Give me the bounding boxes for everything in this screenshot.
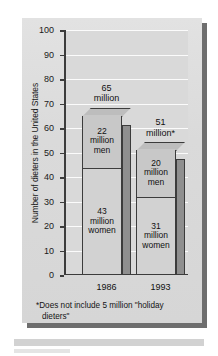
y-axis-tick: 0 [60, 275, 64, 277]
segment-men-1986[interactable]: 22millionmen [83, 115, 121, 169]
page-band-upper [14, 339, 204, 346]
y-axis-tick: 80 [60, 79, 64, 81]
bar-front-face: 31millionwomen20millionmen [136, 150, 176, 275]
y-axis-tick: 70 [60, 104, 64, 106]
gridline [64, 55, 188, 56]
segment-label: 20millionmen [144, 159, 168, 188]
segment-label: 43millionwomen [88, 207, 115, 236]
y-axis-line [64, 30, 66, 275]
x-axis-label-1993: 1993 [150, 282, 170, 292]
y-axis-tick: 40 [60, 177, 64, 179]
y-axis-tick-label: 60 [44, 124, 54, 133]
gridline [64, 104, 188, 105]
y-axis-tick-label: 0 [49, 271, 54, 280]
footnote-line-2: dieters" [36, 311, 194, 322]
y-axis-tick-label: 50 [44, 148, 54, 157]
y-axis-tick: 10 [60, 251, 64, 253]
y-axis-tick-label: 20 [44, 222, 54, 231]
y-axis-tick-label: 10 [44, 246, 54, 255]
x-axis-label-1986: 1986 [96, 282, 116, 292]
segment-label: 22millionmen [90, 127, 114, 156]
bar-side-3d [176, 159, 185, 275]
bar-1986[interactable]: 43millionwomen22millionmen [82, 116, 122, 275]
y-axis-tick-label: 100 [39, 26, 54, 35]
y-axis-tick: 20 [60, 226, 64, 228]
bar-side-3d [122, 125, 131, 275]
bar-total-label-1986: 65million [94, 83, 120, 104]
plot-area: 0102030405060708090100 43millionwomen22m… [64, 30, 188, 275]
bar-front-face: 43millionwomen22millionmen [82, 116, 122, 275]
page-band-lower [14, 349, 70, 353]
y-axis-tick-label: 90 [44, 50, 54, 59]
y-axis-tick: 50 [60, 153, 64, 155]
y-axis-tick-label: 30 [44, 197, 54, 206]
gridline [64, 79, 188, 80]
segment-label: 31millionwomen [142, 222, 169, 251]
y-axis-tick: 30 [60, 202, 64, 204]
y-axis-tick: 90 [60, 55, 64, 57]
y-axis-tick-label: 80 [44, 75, 54, 84]
segment-men-1993[interactable]: 20millionmen [137, 149, 175, 198]
y-axis-tick: 60 [60, 128, 64, 130]
y-axis-title-text: Number of dieters in the United States [30, 82, 40, 222]
segment-women-1986[interactable]: 43millionwomen [83, 169, 121, 274]
chart-footnote: *Does not include 5 million "holiday die… [36, 300, 194, 322]
chart-figure: Number of dieters in the United States 0… [0, 0, 218, 356]
chart-card: Number of dieters in the United States 0… [22, 18, 202, 323]
bar-total-label-1993: 51million* [146, 117, 175, 138]
footnote-line-1: *Does not include 5 million "holiday [36, 301, 164, 310]
gridline [64, 30, 188, 31]
bar-1993[interactable]: 31millionwomen20millionmen [136, 150, 176, 275]
y-axis-tick: 100 [60, 30, 64, 32]
y-axis-title: Number of dieters in the United States [28, 30, 42, 275]
y-axis-tick-label: 40 [44, 173, 54, 182]
segment-women-1993[interactable]: 31millionwomen [137, 198, 175, 274]
y-axis-tick-label: 70 [44, 99, 54, 108]
